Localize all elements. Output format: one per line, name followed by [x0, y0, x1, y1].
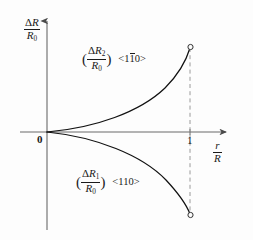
- resistance-symbol: R: [32, 16, 39, 28]
- y-axis-title-fraction: ΔR R0: [24, 17, 40, 43]
- x-axis-title-fraction: r R: [213, 140, 222, 164]
- resistance-subscript: 2: [102, 50, 106, 58]
- resistance-symbol: R: [89, 167, 96, 179]
- upper-curve-label: ( ΔR2 R0 )<110>: [82, 45, 146, 73]
- upper-label-numerator: ΔR2: [87, 45, 106, 60]
- upper-miller-index: <110>: [118, 53, 146, 65]
- lower-label-denominator: R0: [81, 183, 100, 197]
- lower-curve-endpoint-marker: [188, 212, 193, 217]
- delta-symbol: Δ: [82, 167, 89, 179]
- upper-curve-endpoint-marker: [188, 44, 193, 49]
- delta-symbol: Δ: [88, 44, 95, 56]
- resistance-ref-subscript: 0: [92, 188, 96, 196]
- x-axis-title-numerator: r: [213, 140, 222, 153]
- lower-label-fraction: ΔR1 R0: [81, 168, 100, 196]
- miller-close-bracket: >: [140, 53, 146, 64]
- resistance-subscript: 1: [96, 173, 100, 181]
- lower-miller-index: <110>: [112, 177, 139, 188]
- upper-label-close-paren: ): [106, 51, 111, 67]
- miller-digits: 110: [118, 176, 133, 187]
- y-axis-title: ΔR R0: [24, 17, 40, 43]
- x-tick-label-1: 1: [187, 135, 193, 146]
- upper-label-denominator: R0: [87, 60, 106, 74]
- lower-label-numerator: ΔR1: [81, 168, 100, 183]
- origin-label: 0: [37, 134, 43, 145]
- resistance-ref-subscript: 0: [33, 35, 37, 43]
- y-axis-title-denominator: R0: [24, 30, 40, 44]
- x-axis-title: r R: [213, 140, 222, 164]
- resistance-symbol: R: [95, 44, 102, 56]
- miller-close-bracket: >: [134, 176, 140, 187]
- upper-label-fraction: ΔR2 R0: [87, 45, 106, 73]
- x-axis-title-denominator: R: [213, 153, 222, 165]
- lower-label-close-paren: ): [100, 174, 105, 190]
- graph-figure: ΔR R0 r R 0 1 ( ΔR2 R0 )<110> ( ΔR1 R0 )…: [0, 0, 253, 240]
- resistance-ref-subscript: 0: [98, 65, 102, 73]
- lower-curve-label: ( ΔR1 R0 )<110>: [76, 168, 140, 196]
